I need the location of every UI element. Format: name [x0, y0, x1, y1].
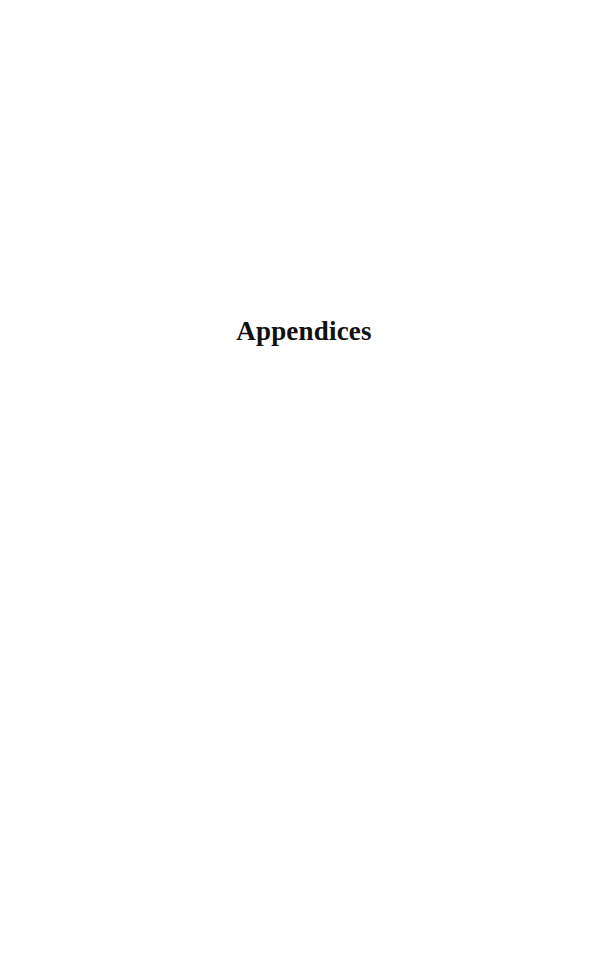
section-title: Appendices [0, 318, 608, 345]
document-page: Appendices [0, 0, 616, 963]
